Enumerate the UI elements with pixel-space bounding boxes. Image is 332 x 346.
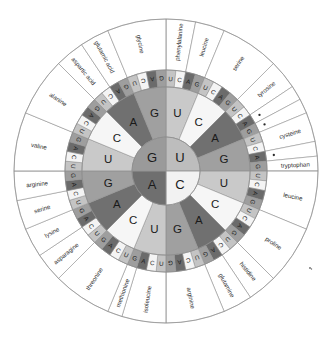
- second-base-letter-12: U: [104, 153, 112, 165]
- stop-codon-dot: [263, 123, 265, 125]
- third-base-letter-63: G: [159, 75, 164, 82]
- second-base-letter-9: C: [129, 214, 137, 226]
- third-base-letter-47: G: [70, 173, 77, 178]
- scan-speck-icon: [309, 267, 311, 269]
- stop-codon-dot: [258, 114, 260, 116]
- second-base-letter-8: U: [150, 223, 158, 235]
- third-base-letter-15: G: [255, 164, 262, 169]
- codon-wheel-figure: phenylalanineleucineserinetyrosinecystei…: [0, 0, 332, 346]
- first-base-letter-A: A: [148, 177, 157, 192]
- third-base-letter-0: U: [168, 75, 173, 82]
- second-base-letter-7: G: [173, 223, 182, 235]
- second-base-letter-2: A: [211, 132, 219, 144]
- third-base-letter-31: G: [168, 260, 173, 267]
- second-base-letter-5: C: [211, 198, 219, 210]
- scan-speck-icon-2: [311, 268, 312, 269]
- second-base-letter-14: A: [129, 116, 137, 128]
- second-base-letter-10: A: [113, 198, 121, 210]
- third-base-letter-48: U: [70, 164, 77, 169]
- second-base-letter-3: G: [219, 153, 228, 165]
- second-base-letter-15: G: [150, 107, 159, 119]
- first-base-letter-G: G: [147, 150, 157, 165]
- stop-codon-dot: [273, 154, 275, 156]
- first-base-letter-C: C: [175, 177, 184, 192]
- second-base-letter-4: U: [220, 177, 228, 189]
- codon-wheel-svg: phenylalanineleucineserinetyrosinecystei…: [0, 0, 332, 346]
- second-base-letter-6: A: [195, 214, 203, 226]
- second-base-letter-0: U: [173, 107, 181, 119]
- third-base-letter-16: U: [255, 173, 262, 178]
- second-base-letter-1: C: [195, 116, 203, 128]
- first-base-letter-U: U: [175, 150, 184, 165]
- amino-acid-label-tryptophan: tryptophan: [281, 160, 310, 168]
- second-base-letter-11: G: [104, 177, 113, 189]
- third-base-letter-32: U: [159, 260, 164, 267]
- second-base-letter-13: C: [113, 132, 121, 144]
